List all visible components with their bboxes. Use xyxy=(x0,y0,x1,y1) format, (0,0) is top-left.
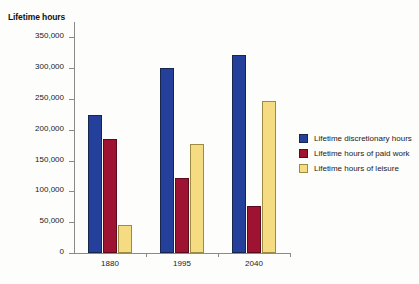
x-axis-label-2040: 2040 xyxy=(245,259,263,268)
y-axis-tick: 0 xyxy=(69,253,74,254)
bar-1880-series-2 xyxy=(118,225,132,253)
y-axis-tick-label: 100,000 xyxy=(35,185,64,194)
y-axis-tick: 200,000 xyxy=(69,130,74,131)
y-axis-line xyxy=(74,22,75,253)
x-axis-label-1995: 1995 xyxy=(173,259,191,268)
y-axis-tick: 150,000 xyxy=(69,161,74,162)
bar-1880-series-1 xyxy=(103,139,117,253)
bar-2040-series-0 xyxy=(232,55,246,253)
bar-2040-series-1 xyxy=(247,206,261,253)
legend-label: Lifetime hours of leisure xyxy=(314,164,399,173)
y-axis-tick-label: 50,000 xyxy=(40,216,64,225)
bar-1995-series-2 xyxy=(190,144,204,253)
y-axis-tick: 100,000 xyxy=(69,191,74,192)
bar-1995-series-1 xyxy=(175,178,189,253)
legend-label: Lifetime hours of paid work xyxy=(314,149,410,158)
bar-2040-series-2 xyxy=(262,101,276,253)
legend-item-2[interactable]: Lifetime hours of leisure xyxy=(299,161,412,176)
y-axis-tick-label: 150,000 xyxy=(35,155,64,164)
y-axis-tick: 350,000 xyxy=(69,37,74,38)
chart-legend: Lifetime discretionary hoursLifetime hou… xyxy=(299,131,412,176)
x-axis-label-1880: 1880 xyxy=(101,259,119,268)
x-axis-tick xyxy=(290,253,291,257)
legend-swatch-icon xyxy=(299,134,308,143)
plot-area: 050,000100,000150,000200,000250,000300,0… xyxy=(74,22,290,253)
y-axis-tick-label: 300,000 xyxy=(35,62,64,71)
legend-swatch-icon xyxy=(299,149,308,158)
legend-item-1[interactable]: Lifetime hours of paid work xyxy=(299,146,412,161)
y-axis-tick-label: 350,000 xyxy=(35,31,64,40)
y-axis-tick: 300,000 xyxy=(69,68,74,69)
y-axis-title: Lifetime hours xyxy=(8,12,65,22)
x-axis-tick xyxy=(146,253,147,257)
bar-1995-series-0 xyxy=(160,68,174,253)
y-axis-tick-label: 0 xyxy=(60,247,64,256)
legend-item-0[interactable]: Lifetime discretionary hours xyxy=(299,131,412,146)
legend-swatch-icon xyxy=(299,164,308,173)
bar-chart: Lifetime hours 050,000100,000150,000200,… xyxy=(0,0,419,284)
y-axis-tick: 250,000 xyxy=(69,99,74,100)
y-axis-tick: 50,000 xyxy=(69,222,74,223)
y-axis-tick-label: 250,000 xyxy=(35,93,64,102)
legend-label: Lifetime discretionary hours xyxy=(314,134,412,143)
x-axis-line xyxy=(74,253,291,254)
y-axis-tick-label: 200,000 xyxy=(35,124,64,133)
x-axis-tick xyxy=(218,253,219,257)
bar-1880-series-0 xyxy=(88,115,102,253)
